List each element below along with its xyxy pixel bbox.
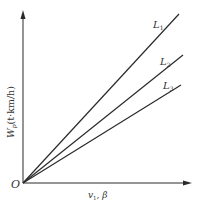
line-l2 <box>23 55 183 183</box>
label-l1: L1 <box>152 19 163 31</box>
line-l3 <box>23 85 181 183</box>
label-l3: L3 <box>162 80 174 92</box>
y-axis-arrow-icon <box>21 10 26 19</box>
x-axis-label: v1, β <box>88 190 108 201</box>
line-l1 <box>23 14 179 183</box>
label-l2: L2 <box>159 56 171 68</box>
origin-label: O <box>11 178 20 191</box>
y-axis-label: Wp(t·km/h) <box>5 86 18 138</box>
diagram-canvas: L1 L2 L3 O Wp(t·km/h) v1, β <box>0 0 198 209</box>
x-axis-arrow-icon <box>183 181 192 186</box>
